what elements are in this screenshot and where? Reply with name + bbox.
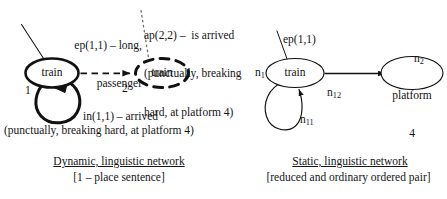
right-caption-title: Static, linguistic network xyxy=(255,155,445,168)
edge-n11-label: n11 xyxy=(300,113,314,127)
edge-n12-label-sub: 12 xyxy=(333,91,341,100)
figure-root: ep(1,1) – long, passenger ap(2,2) – is a… xyxy=(0,0,447,199)
edge-n11-label-sub: 11 xyxy=(306,118,314,127)
node-n1-index-sub: 1 xyxy=(261,71,265,80)
edge-n12-label: n12 xyxy=(327,86,341,100)
node-train-2-label: train xyxy=(137,66,187,78)
node-platform-n2-label-line1: platform xyxy=(387,89,437,102)
ep-annotation-left-line1: ep(1,1) – long, xyxy=(30,39,142,52)
node-n1-index: n1 xyxy=(255,66,265,80)
node-train-1-index: 1 xyxy=(25,84,31,97)
right-caption-subtitle: [reduced and ordinary ordered pair] xyxy=(250,171,447,184)
node-platform-n2-label: platform 4 xyxy=(387,64,437,165)
node-train-n1-label: train xyxy=(270,66,320,78)
in-annotation-line1: in(1,1) – arrived xyxy=(83,110,158,123)
node-train-1-label: train xyxy=(27,66,77,78)
node-platform-n2-label-line2: 4 xyxy=(387,127,437,140)
left-caption-title: Dynamic, linguistic network xyxy=(14,155,224,168)
in-annotation-line2: (punctually, breaking hard, at platform … xyxy=(4,124,194,137)
node-train-2-index: 2 xyxy=(122,82,128,95)
ep-annotation-left: ep(1,1) – long, passenger xyxy=(30,13,142,116)
ap-annotation-line3: hard, at platform 4) xyxy=(144,106,274,119)
ap-annotation-line1: ap(2,2) – is arrived xyxy=(144,29,274,42)
left-caption-subtitle: [1 – place sentence] xyxy=(14,171,224,184)
ep-annotation-right: ep(1,1) xyxy=(283,33,316,46)
